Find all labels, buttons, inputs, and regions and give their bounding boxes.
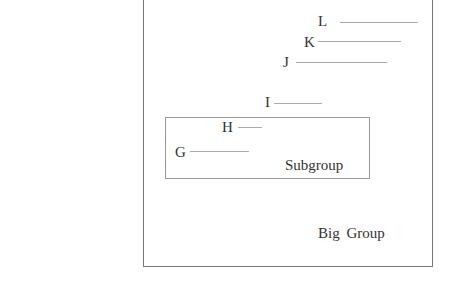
item-label-h: H	[222, 120, 233, 135]
item-line-j	[296, 62, 387, 63]
item-label-l: L	[318, 14, 327, 29]
item-line-l	[340, 22, 418, 23]
subgroup-label: Subgroup	[285, 157, 343, 173]
item-line-h	[238, 127, 262, 128]
item-label-i: I	[265, 95, 270, 110]
big-group-label: Big Group	[318, 225, 385, 241]
item-line-g	[190, 151, 249, 152]
item-label-j: J	[283, 55, 289, 70]
item-line-i	[274, 103, 322, 104]
item-line-k	[318, 41, 401, 42]
item-label-g: G	[175, 145, 186, 160]
item-label-k: K	[304, 35, 315, 50]
